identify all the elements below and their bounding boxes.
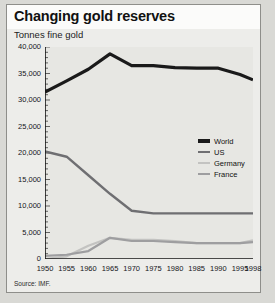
legend-label: World xyxy=(214,137,233,146)
legend-label: Germany xyxy=(214,159,245,168)
series-line-france xyxy=(45,238,253,256)
chart-legend: WorldUSGermanyFrance xyxy=(198,136,258,180)
y-tick-label: 30,000 xyxy=(1,96,41,104)
legend-swatch-icon xyxy=(198,139,210,142)
legend-item-us: US xyxy=(198,147,258,157)
y-tick-label: 0 xyxy=(1,255,41,263)
y-tick-label: 15,000 xyxy=(1,176,41,184)
source-note: Source: IMF. xyxy=(14,280,50,288)
legend-swatch-icon xyxy=(198,173,210,175)
y-tick-label: 5,000 xyxy=(1,229,41,237)
legend-item-france: France xyxy=(198,169,258,179)
series-line-world xyxy=(45,54,253,92)
chart-title: Changing gold reserves xyxy=(14,7,254,25)
y-tick-label: 10,000 xyxy=(1,202,41,210)
x-axis-labels: 1950195519601965197019751980198519901995… xyxy=(45,264,255,276)
legend-label: US xyxy=(214,148,224,157)
legend-item-germany: Germany xyxy=(198,158,258,168)
gold-reserves-figure: Changing gold reserves Tonnes fine gold … xyxy=(0,0,275,303)
legend-swatch-icon xyxy=(198,151,210,153)
y-tick-label: 40,000 xyxy=(1,43,41,51)
y-tick-label: 25,000 xyxy=(1,123,41,131)
legend-swatch-icon xyxy=(198,162,210,164)
chart-subtitle: Tonnes fine gold xyxy=(14,29,83,40)
y-tick-label: 35,000 xyxy=(1,70,41,78)
y-axis-labels: 05,00010,00015,00020,00025,00030,00035,0… xyxy=(0,47,41,259)
x-tick-label: 1998 xyxy=(238,264,268,273)
y-tick-label: 20,000 xyxy=(1,149,41,157)
legend-item-world: World xyxy=(198,136,258,146)
legend-label: France xyxy=(214,170,237,179)
